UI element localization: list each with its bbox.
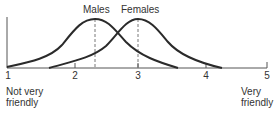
- females-label: Females: [121, 4, 159, 15]
- males-curve: [7, 19, 178, 68]
- females-curve: [49, 19, 222, 68]
- tick-label-3: 3: [135, 70, 141, 81]
- left-endpoint-label-line1: Not very: [6, 86, 43, 97]
- tick-label-1: 1: [5, 70, 11, 81]
- tick-label-4: 4: [203, 70, 209, 81]
- right-endpoint-label-line1: Very: [241, 86, 261, 97]
- left-endpoint-label-line2: friendly: [6, 97, 38, 108]
- tick-label-5: 5: [264, 70, 270, 81]
- distribution-chart: [0, 0, 274, 115]
- males-label: Males: [83, 4, 110, 15]
- tick-label-2: 2: [72, 70, 78, 81]
- right-endpoint-label-line2: friendly: [241, 97, 273, 108]
